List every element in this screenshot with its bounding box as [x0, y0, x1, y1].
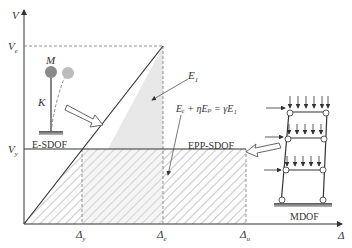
mass-label: M	[46, 55, 55, 66]
energy-equation: Eₑ + ηEₚ = γE₁	[176, 104, 237, 114]
mdof-label: MDOF	[290, 212, 319, 222]
y-axis-label: V	[12, 10, 19, 21]
epp-sdof-label: EPP-SDOF	[188, 141, 234, 151]
stiffness-label: K	[38, 97, 45, 108]
tick-ve: Ve	[8, 41, 18, 55]
tick-delta-y: Δy	[76, 229, 86, 243]
e1-label: E1	[188, 70, 198, 84]
tick-delta-e: Δe	[157, 229, 167, 243]
e-sdof-label: E-SDOF	[32, 140, 67, 150]
x-axis-label: Δ	[338, 230, 344, 241]
tick-delta-u: Δu	[240, 229, 250, 243]
mdof-frame-icon	[281, 112, 327, 204]
arrow-esdof-to-plot	[65, 105, 103, 127]
elastic-energy-region	[108, 46, 163, 149]
arrow-mdof-to-epp	[246, 143, 281, 157]
tick-vy: Vy	[8, 144, 18, 158]
